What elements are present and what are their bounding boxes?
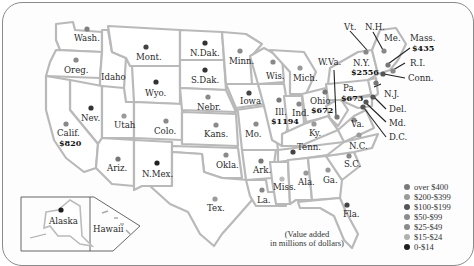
label-calif: Calif. xyxy=(57,128,80,138)
label-wva: W.Va. xyxy=(318,57,341,67)
label-oreg: Oreg. xyxy=(64,65,88,75)
label-va: Va. xyxy=(350,119,364,129)
value-calif: $820 xyxy=(59,138,82,148)
label-mont: Mont. xyxy=(136,52,162,62)
label-sc: S.C. xyxy=(344,159,361,169)
label-la: La. xyxy=(257,195,271,205)
dot-alaska xyxy=(58,207,63,212)
state-wyoming xyxy=(132,66,180,104)
label-nebr: Nebr. xyxy=(197,102,221,112)
label-ind: Ind. xyxy=(292,108,309,118)
legend-dot-icon xyxy=(404,204,410,210)
legend-dot-icon xyxy=(404,194,410,200)
label-nj: N.J. xyxy=(384,89,399,99)
legend-item: $50-$99 xyxy=(404,212,464,222)
label-wash: Wash. xyxy=(74,33,100,43)
label-nev: Nev. xyxy=(81,113,100,123)
label-minn: Minn. xyxy=(229,56,254,66)
label-hawaii: Hawaii xyxy=(93,224,124,234)
label-ga: Ga. xyxy=(323,175,338,185)
label-okla: Okla. xyxy=(216,160,239,170)
legend: over $400 $200-$399 $100-$199 $50-$99 $2… xyxy=(404,182,464,252)
label-conn: Conn. xyxy=(408,73,434,83)
legend-item: $200-$399 xyxy=(404,192,464,202)
label-wyo: Wyo. xyxy=(145,88,166,98)
legend-item: $100-$199 xyxy=(404,202,464,212)
legend-dot-icon xyxy=(404,224,410,230)
label-idaho: Idaho xyxy=(101,72,126,82)
label-ky: Ky. xyxy=(309,128,321,138)
state-arizona xyxy=(96,138,134,186)
state-new-mexico xyxy=(134,140,172,190)
legend-item: $25-$49 xyxy=(404,222,464,232)
state-utah xyxy=(102,86,134,138)
label-del: Del. xyxy=(389,104,406,114)
label-ark: Ark. xyxy=(252,165,271,175)
label-pa: Pa. xyxy=(343,83,356,93)
legend-item: 0-$14 xyxy=(404,242,464,252)
label-me: Me. xyxy=(384,33,401,43)
value-mass: $435 xyxy=(412,43,434,53)
legend-dot-icon xyxy=(404,244,410,250)
label-ariz: Ariz. xyxy=(106,163,127,173)
legend-item: over $400 xyxy=(404,182,464,192)
units-note: (Value added in millions of dollars) xyxy=(262,230,352,248)
label-dc: D.C. xyxy=(389,132,407,142)
label-ala: Ala. xyxy=(297,177,315,187)
label-nmex: N.Mex. xyxy=(142,169,173,179)
label-mass: Mass. xyxy=(410,33,435,43)
label-kans: Kans. xyxy=(204,129,228,139)
label-iowa: Iowa xyxy=(240,96,261,106)
label-mich: Mich. xyxy=(293,73,318,83)
label-colo: Colo. xyxy=(154,126,176,136)
legend-item: $15-$24 xyxy=(404,232,464,242)
label-utah: Utah xyxy=(114,120,136,130)
legend-dot-icon xyxy=(404,214,410,220)
label-tex: Tex. xyxy=(207,203,225,213)
label-nh: N.H. xyxy=(365,22,385,32)
label-md: Md. xyxy=(389,118,406,128)
inset-alaska-hawaii: Alaska Hawaii xyxy=(21,197,140,251)
value-pa: $673 xyxy=(341,93,364,103)
label-tenn: Tenn. xyxy=(297,142,321,152)
legend-dot-icon xyxy=(404,184,410,190)
value-ohio: $672 xyxy=(311,105,333,115)
label-ndak: N.Dak. xyxy=(190,48,220,58)
legend-dot-icon xyxy=(404,234,410,240)
label-fla: Fla. xyxy=(343,209,360,219)
label-wis: Wis. xyxy=(266,71,285,81)
label-miss: Miss. xyxy=(273,182,296,192)
label-ri: R.I. xyxy=(410,58,425,68)
label-vt: Vt. xyxy=(343,22,356,32)
label-mo: Mo. xyxy=(245,129,262,139)
label-sdak: S.Dak. xyxy=(191,75,219,85)
label-alaska: Alaska xyxy=(48,216,78,226)
label-nc: N.C. xyxy=(349,141,368,151)
value-ny: $2556 xyxy=(351,67,379,77)
